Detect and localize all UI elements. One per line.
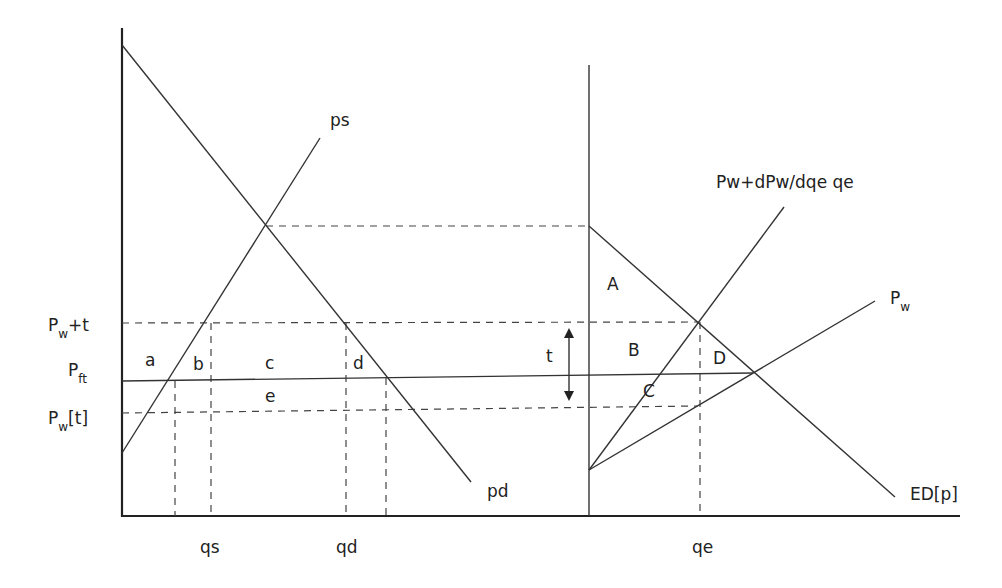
qe-label: qe — [692, 537, 713, 557]
y-axis-labels: Pw+t Pft Pw[t] — [48, 315, 89, 434]
guide-lines — [122, 226, 700, 516]
x-axis-labels: qs qd qe — [200, 537, 713, 557]
marginal-cost-curve — [589, 207, 784, 470]
region-b: b — [193, 354, 204, 374]
ps-label: ps — [330, 110, 350, 130]
mc-label: Pw+dPw/dqe qe — [716, 172, 854, 192]
region-A: A — [607, 274, 619, 294]
pw-t-guide — [122, 406, 698, 413]
region-a: a — [145, 350, 155, 370]
pd-label: pd — [487, 481, 509, 501]
trade-tariff-diagram: Pw+t Pft Pw[t] ps pd Pw+dPw/dqe qe Pw ED… — [0, 0, 1002, 588]
region-c: c — [265, 353, 274, 373]
pw-t-label: Pw[t] — [48, 408, 88, 434]
region-D: D — [713, 348, 726, 368]
world-price-curve — [589, 301, 875, 470]
pw-label: Pw — [890, 288, 910, 314]
ed-label: ED[p] — [910, 484, 958, 504]
demand-curve-pd — [122, 45, 471, 482]
region-C: C — [643, 381, 655, 401]
pft-label: Pft — [68, 360, 87, 386]
pw-plus-t-label: Pw+t — [48, 315, 89, 341]
qs-label: qs — [200, 537, 220, 557]
region-d: d — [353, 353, 364, 373]
region-B: B — [628, 340, 640, 360]
qd-label: qd — [336, 537, 358, 557]
tariff-label-t: t — [546, 346, 553, 366]
pw-plus-t-guide — [122, 322, 698, 323]
region-labels-right: A B C D t — [546, 274, 726, 401]
left-curves — [122, 45, 471, 482]
excess-demand-curve — [589, 226, 895, 497]
supply-curve-ps — [122, 138, 320, 453]
region-e: e — [265, 386, 275, 406]
